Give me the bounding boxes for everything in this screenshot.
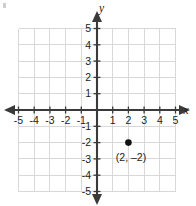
y-tick-label: 5 <box>85 22 91 34</box>
y-tick-label: -2 <box>82 136 91 148</box>
x-tick-label: 3 <box>141 114 147 126</box>
x-tick-label: 4 <box>157 114 163 126</box>
y-tick-label: 3 <box>85 55 91 67</box>
x-tick-label: -2 <box>61 114 70 126</box>
x-tick-label: 2 <box>125 114 131 126</box>
x-axis-label: x <box>182 104 189 116</box>
y-tick-label: -5 <box>82 185 91 197</box>
x-tick-label: -3 <box>45 114 54 126</box>
y-tick-label: -1 <box>82 120 91 132</box>
x-tick-label: 5 <box>173 114 179 126</box>
plotted-point[interactable] <box>125 139 132 146</box>
coordinate-plane-graph: -5 -4 -3 -2 -1 1 2 3 4 5 5 4 3 2 1 -1 -2… <box>0 0 196 206</box>
coordinate-plane-screenshot: -5 -4 -3 -2 -1 1 2 3 4 5 5 4 3 2 1 -1 -2… <box>0 0 196 206</box>
y-tick-label: 2 <box>85 71 91 83</box>
y-tick-label: 1 <box>85 87 91 99</box>
y-tick-label: -4 <box>82 169 91 181</box>
x-tick-label: -5 <box>14 114 23 126</box>
x-tick-label: -4 <box>30 114 39 126</box>
y-tick-label: -3 <box>82 153 91 165</box>
y-axis-arrow-down <box>92 194 102 205</box>
plotted-point-label: (2, –2) <box>116 151 146 163</box>
y-tick-label: 4 <box>85 39 91 51</box>
x-tick-label: 1 <box>110 114 116 126</box>
y-axis-label: y <box>98 2 105 15</box>
y-axis <box>92 11 102 205</box>
